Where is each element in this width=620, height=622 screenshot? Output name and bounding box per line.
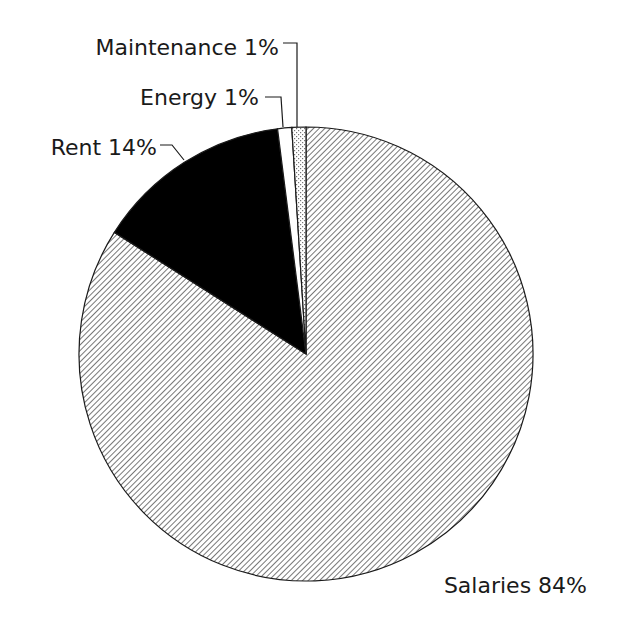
leader-line-energy bbox=[265, 97, 283, 127]
pie-slices bbox=[79, 127, 533, 581]
label-rent: Rent 14% bbox=[51, 135, 157, 160]
pie-chart: Maintenance 1% Energy 1% Rent 14% Salari… bbox=[0, 0, 620, 622]
label-maintenance: Maintenance 1% bbox=[95, 35, 279, 60]
leader-line-maintenance bbox=[283, 43, 297, 127]
label-salaries: Salaries 84% bbox=[444, 573, 587, 598]
leader-line-rent bbox=[160, 145, 184, 160]
label-energy: Energy 1% bbox=[140, 85, 259, 110]
